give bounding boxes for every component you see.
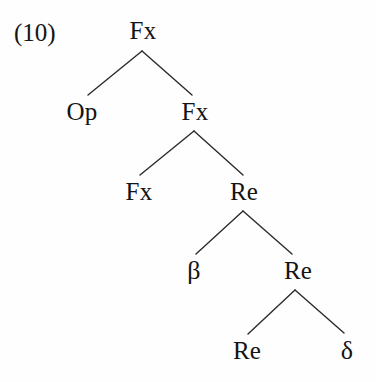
tree-node-n4: Re — [230, 179, 258, 204]
tree-edge — [140, 131, 194, 175]
tree-edge — [142, 51, 192, 95]
tree-edge — [88, 51, 142, 95]
tree-node-n8: δ — [341, 338, 353, 364]
tree-node-n6: Re — [284, 258, 312, 283]
tree-edge — [243, 211, 292, 254]
tree-edges-group — [0, 0, 376, 382]
tree-node-n1: Op — [67, 99, 98, 124]
tree-node-n3: Fx — [126, 179, 153, 204]
tree-node-n0: Fx — [130, 18, 157, 43]
tree-edge — [196, 211, 243, 254]
tree-edge — [194, 131, 243, 175]
syntax-tree-figure: (10) FxOpFxFxReβReReδ — [0, 0, 376, 382]
tree-node-n5: β — [187, 258, 200, 284]
tree-edge — [248, 290, 295, 334]
tree-node-n7: Re — [233, 338, 261, 363]
tree-node-n2: Fx — [182, 99, 209, 124]
tree-edge — [295, 290, 344, 333]
